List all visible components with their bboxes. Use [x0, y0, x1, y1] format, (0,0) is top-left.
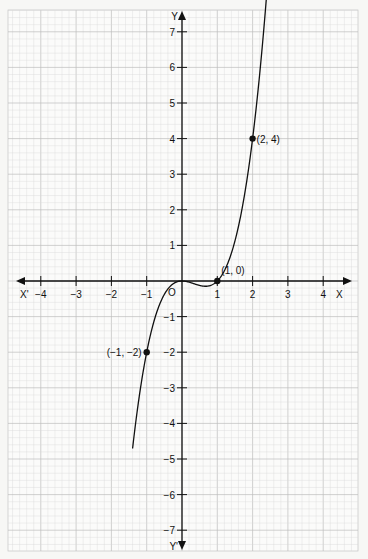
x-tick-label: 3: [285, 289, 291, 300]
x-tick-label: −3: [70, 289, 82, 300]
y-tick-label: −3: [164, 383, 176, 394]
point-label: (1, 0): [221, 265, 244, 276]
y-tick-label: 1: [169, 240, 175, 251]
x-tick-label: 4: [320, 289, 326, 300]
y-tick-label: −7: [164, 525, 176, 536]
y-tick-label: 5: [169, 98, 175, 109]
origin-label: O: [168, 287, 176, 298]
point-marker: [249, 135, 255, 141]
y-tick-label: 7: [169, 27, 175, 38]
y-tick-label: 4: [169, 134, 175, 145]
y-tick-label: 3: [169, 169, 175, 180]
x-tick-label: −4: [35, 289, 47, 300]
y-tick-label: −4: [164, 418, 176, 429]
y-tick-label: 6: [169, 62, 175, 73]
y-tick-label: −6: [164, 490, 176, 501]
graph-plot: −4−3−2−11234−7−6−5−4−3−2−11234567XX'YY'O…: [0, 0, 368, 559]
point-marker: [214, 278, 220, 284]
x-axis-label: X: [336, 289, 343, 300]
x-tick-label: 2: [250, 289, 256, 300]
x-axis-neg-label: X': [20, 289, 29, 300]
y-tick-label: −1: [164, 312, 176, 323]
point-label: (2, 4): [257, 134, 280, 145]
x-tick-label: 1: [215, 289, 221, 300]
x-tick-label: −1: [141, 289, 153, 300]
point-label: (−1, −2): [107, 347, 142, 358]
y-axis-neg-label: Y': [169, 541, 178, 552]
y-tick-label: −5: [164, 454, 176, 465]
y-axis-label: Y: [171, 11, 178, 22]
x-tick-label: −2: [106, 289, 118, 300]
y-tick-label: −2: [164, 347, 176, 358]
point-marker: [144, 349, 150, 355]
y-tick-label: 2: [169, 205, 175, 216]
